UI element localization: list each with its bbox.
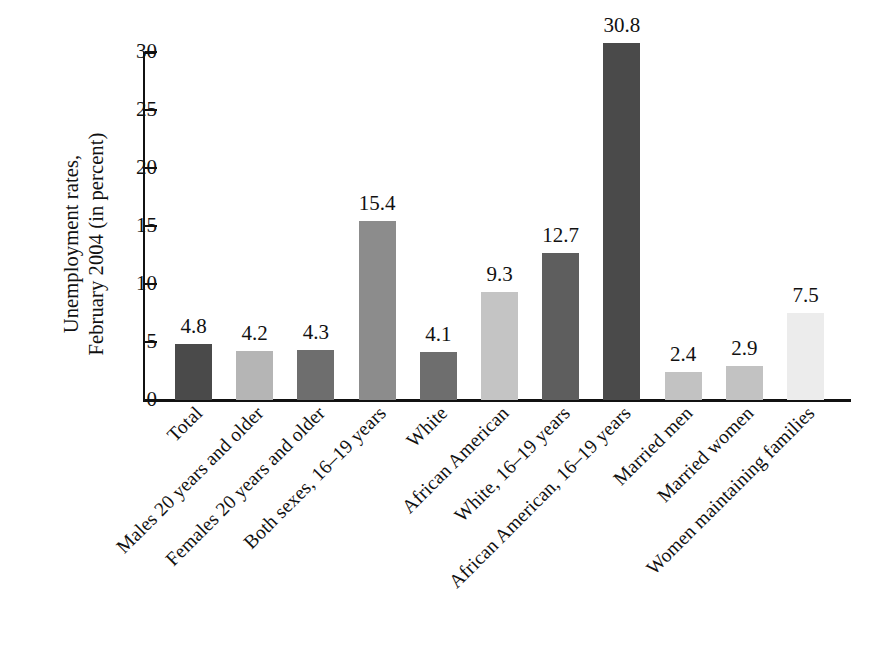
bar — [481, 292, 518, 400]
bar — [420, 352, 457, 400]
bar-value-label: 4.3 — [279, 322, 352, 343]
x-axis-category-label: Total — [164, 403, 207, 446]
bar — [542, 253, 579, 400]
bar — [787, 313, 824, 400]
bar — [359, 221, 396, 400]
x-axis-category-label: African American — [398, 403, 512, 517]
bar-value-label: 2.9 — [708, 338, 781, 359]
bar — [236, 351, 273, 400]
bar-value-label: 4.1 — [402, 324, 475, 345]
bar — [175, 344, 212, 400]
x-axis-category-label: White, 16–19 years — [451, 403, 574, 526]
bar-value-label: 15.4 — [341, 193, 414, 214]
bar — [726, 366, 763, 400]
bar-value-label: 12.7 — [524, 225, 597, 246]
bar — [665, 372, 702, 400]
bar — [603, 43, 640, 400]
bar-value-label: 30.8 — [585, 15, 658, 36]
x-axis-category-label: White — [403, 403, 451, 451]
bar-value-label: 7.5 — [769, 285, 842, 306]
bar — [297, 350, 334, 400]
unemployment-rate-bar-chart: Unemployment rates, February 2004 (in pe… — [0, 0, 888, 670]
bars-layer: 4.84.24.315.44.19.312.730.82.42.97.5 — [0, 0, 888, 400]
bar-value-label: 9.3 — [463, 264, 536, 285]
